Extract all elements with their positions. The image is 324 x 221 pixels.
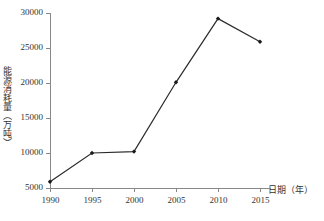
plot-area: 50001000015000200002500030000 1990199520…	[50, 13, 270, 188]
series-markers	[48, 16, 262, 184]
chart-page: 能源消耗量（万吨） 日期（年） 500010000150002000025000…	[0, 0, 324, 221]
y-tick-label: 15000	[21, 112, 44, 122]
data-point-marker	[258, 40, 262, 44]
y-tick-label: 25000	[21, 42, 44, 52]
x-tick-label: 1990	[42, 195, 60, 205]
x-tick-label: 2015	[252, 195, 270, 205]
y-tick-label: 5000	[25, 182, 43, 192]
x-tick-label: 1995	[84, 195, 102, 205]
x-tick-label: 2005	[168, 195, 186, 205]
y-tick-label: 30000	[21, 7, 44, 17]
line-series	[50, 13, 270, 189]
x-axis-title: 日期（年）	[268, 183, 313, 196]
y-tick-label: 10000	[21, 147, 44, 157]
y-axis-title: 能源消耗量（万吨）	[0, 46, 14, 166]
x-tick-label: 2000	[126, 195, 144, 205]
y-tick-label: 20000	[21, 77, 44, 87]
x-tick-label: 2010	[210, 195, 228, 205]
series-polyline	[50, 19, 260, 182]
